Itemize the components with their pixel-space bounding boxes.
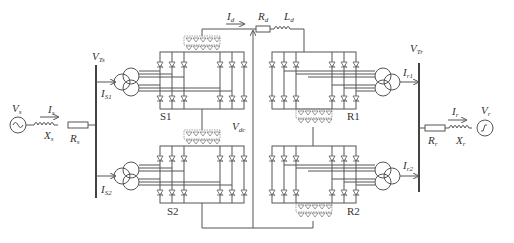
sending-resistor: Rs [68, 122, 96, 146]
label-s1: S1 [160, 110, 172, 122]
dc-resistor [256, 26, 270, 32]
transformer-r2: Ir2 [284, 159, 418, 190]
label-ir2: Ir2 [402, 159, 413, 173]
label-is1: IS1 [100, 87, 112, 101]
sending-source: Vs [10, 102, 26, 133]
label-r2: R2 [347, 205, 360, 217]
label-rr: Rr [427, 134, 438, 148]
label-ir1: Ir1 [402, 66, 413, 80]
receiving-impedance: Rr Xr Ir [419, 105, 472, 148]
label-vr: Vr [481, 104, 491, 118]
transformer-s2: IS2 [96, 162, 232, 197]
ac-wave-icon [481, 125, 487, 131]
transformer-s1: IS1 [96, 68, 232, 101]
label-r1: R1 [347, 110, 360, 122]
label-vts: VTs [92, 50, 105, 64]
label-rs: Rs [69, 132, 80, 146]
label-xs: Xs [43, 129, 54, 143]
label-is: Is [47, 103, 55, 117]
label-rd: Rd [257, 10, 269, 24]
hvdc-circuit-diagram: Vs Xs Is Rs VTs IS1 IS2 [0, 0, 514, 243]
label-vs: Vs [12, 102, 22, 116]
ac-sine-icon [13, 123, 23, 128]
receiving-source: Vr [477, 104, 493, 136]
label-s2: S2 [167, 205, 179, 217]
sending-reactance: Xs Is [26, 103, 58, 143]
label-vdc: Vdc [232, 120, 246, 134]
label-xr: Xr [455, 134, 466, 148]
bridge-s1: S1 [157, 29, 247, 122]
label-is2: IS2 [100, 183, 112, 197]
label-vtr: VTr [410, 42, 423, 56]
label-id: Id [226, 10, 235, 24]
transformer-r1: Ir1 [284, 66, 418, 96]
label-ld: Ld [283, 10, 294, 24]
dc-inductor [270, 27, 304, 53]
label-ir: Ir [451, 105, 459, 119]
